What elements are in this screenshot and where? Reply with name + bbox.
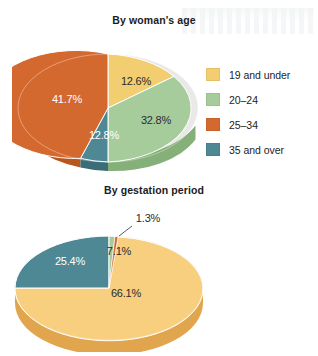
legend-label-20-24: 20–24	[229, 94, 258, 106]
pie-label-9-13-weeks: 25.4%	[55, 255, 86, 267]
chart-title-by-gestation-period: By gestation period	[0, 176, 318, 196]
legend-label-25-34: 25–34	[229, 119, 258, 131]
pie-chart-by-gestation-period: 66.1% 25.4% 7.1% 1.3%	[8, 200, 210, 352]
pie-label-35-and-over: 12.8%	[89, 129, 120, 141]
legend-item-25-34[interactable]: 25–34	[206, 112, 290, 137]
legend-label-19-and-under: 19 and under	[229, 69, 290, 81]
pie-label-lt-9-weeks: 66.1%	[111, 287, 142, 299]
chart-title-by-womans-age: By woman's age	[0, 0, 318, 26]
pie-svg-by-gestation-period: 66.1% 25.4% 7.1% 1.3%	[8, 200, 210, 352]
legend-swatch-20-24	[206, 93, 220, 106]
legend-item-35-and-over[interactable]: 35 and over	[206, 137, 290, 162]
pie-label-19-and-under: 12.6%	[121, 75, 152, 87]
pie-label-25-34: 41.7%	[52, 93, 83, 105]
chart-panel-by-womans-age: By woman's age	[0, 0, 318, 176]
pie-label-14-20-weeks: 7.1%	[107, 245, 132, 257]
pie-chart-by-womans-age: 12.6% 32.8% 41.7% 12.8%	[12, 30, 208, 176]
pie-label-20-24: 32.8%	[141, 114, 172, 126]
legend-by-womans-age: 19 and under 20–24 25–34 35 and over	[206, 62, 290, 162]
legend-swatch-35-and-over	[206, 143, 220, 156]
legend-label-35-and-over: 35 and over	[229, 144, 284, 156]
callout-leader-21-or-more	[119, 226, 132, 236]
legend-item-19-and-under[interactable]: 19 and under	[206, 62, 290, 87]
legend-swatch-25-34	[206, 118, 220, 131]
legend-swatch-19-and-under	[206, 68, 220, 81]
chart-panel-by-gestation-period: By gestation period	[0, 176, 318, 356]
pie-svg-by-womans-age: 12.6% 32.8% 41.7% 12.8%	[12, 30, 208, 176]
legend-item-20-24[interactable]: 20–24	[206, 87, 290, 112]
pie-label-21-or-more: 1.3%	[136, 212, 161, 224]
